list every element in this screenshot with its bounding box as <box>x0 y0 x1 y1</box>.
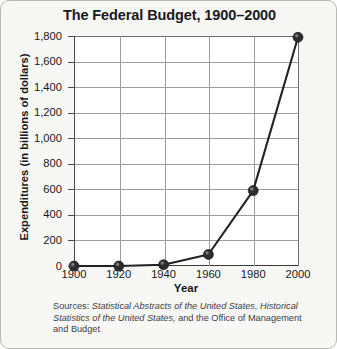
y-tick-label: 1,200 <box>6 106 62 118</box>
y-tick-mark <box>68 240 74 241</box>
y-tick-label: 200 <box>6 234 62 246</box>
y-tick-mark <box>68 87 74 88</box>
y-tick-mark <box>68 36 74 37</box>
figure-container: The Federal Budget, 1900–2000 Expenditur… <box>0 0 337 349</box>
y-tick-mark <box>68 164 74 165</box>
y-tick-mark <box>68 189 74 190</box>
y-tick-mark <box>68 138 74 139</box>
data-point-marker <box>203 250 213 260</box>
y-tick-label: 1,800 <box>6 30 62 42</box>
y-tick-label: 800 <box>6 157 62 169</box>
source-prefix: Sources: <box>53 301 89 311</box>
y-axis-title: Expenditures (in billions of dollars) <box>18 42 30 252</box>
y-tick-label: 1,000 <box>6 132 62 144</box>
data-point-highlight <box>116 263 119 266</box>
y-tick-label: 600 <box>6 183 62 195</box>
source-note: Sources: Statistical Abstracts of the Un… <box>53 301 315 336</box>
y-tick-label: 1,400 <box>6 81 62 93</box>
data-point-highlight <box>250 187 253 190</box>
data-point-highlight <box>205 251 208 254</box>
y-tick-mark <box>68 113 74 114</box>
data-point-marker <box>248 186 258 196</box>
y-tick-mark <box>68 266 74 267</box>
chart-title: The Federal Budget, 1900–2000 <box>1 7 337 23</box>
x-tick-label: 2000 <box>270 268 326 280</box>
y-tick-mark <box>68 62 74 63</box>
data-series-line <box>74 36 298 266</box>
y-tick-mark <box>68 215 74 216</box>
source-title-1: Statistical Abstracts of the United Stat… <box>92 301 258 311</box>
data-point-highlight <box>295 34 298 37</box>
x-axis-title: Year <box>74 282 298 294</box>
data-point-marker <box>293 32 303 42</box>
y-tick-label: 400 <box>6 208 62 220</box>
y-tick-label: 1,600 <box>6 55 62 67</box>
data-point-highlight <box>161 261 164 264</box>
